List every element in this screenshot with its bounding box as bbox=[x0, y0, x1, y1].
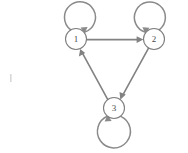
node-3[interactable]: 3 bbox=[104, 98, 125, 119]
edge-1-to-2 bbox=[87, 36, 144, 43]
edge-3-to-1 bbox=[79, 49, 108, 100]
self-loop-node-3 bbox=[97, 115, 130, 148]
edge-2-to-3-line bbox=[123, 48, 149, 95]
self-loop-node-3-path bbox=[97, 116, 130, 148]
edge-3-to-1-line bbox=[82, 53, 108, 100]
edge-1-to-2-arrowhead bbox=[137, 36, 144, 43]
edge-2-to-3-arrowhead bbox=[120, 92, 126, 100]
self-loop-node-1-path bbox=[64, 2, 95, 32]
node-1-label: 1 bbox=[74, 34, 79, 44]
node-2-label: 2 bbox=[152, 34, 157, 44]
graph-canvas: 1 2 3 bbox=[0, 0, 188, 153]
state-transition-diagram: 1 2 3 bbox=[0, 0, 188, 153]
edge-2-to-3 bbox=[120, 48, 149, 99]
scan-artifact bbox=[10, 74, 12, 82]
node-1[interactable]: 1 bbox=[66, 29, 87, 50]
node-3-label: 3 bbox=[112, 103, 117, 113]
node-2[interactable]: 2 bbox=[144, 29, 165, 50]
self-loop-node-2-path bbox=[134, 2, 165, 32]
